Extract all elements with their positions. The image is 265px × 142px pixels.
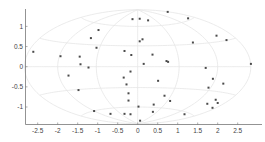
data-point bbox=[90, 37, 92, 39]
x-tick-label: -1 bbox=[95, 127, 101, 134]
data-point bbox=[138, 106, 140, 108]
data-point bbox=[132, 18, 134, 20]
data-point bbox=[139, 40, 141, 42]
data-point bbox=[139, 120, 141, 122]
x-tick-label: 0.5 bbox=[153, 127, 162, 134]
data-point bbox=[123, 77, 125, 79]
data-point bbox=[88, 67, 90, 69]
data-point bbox=[157, 80, 159, 82]
data-point bbox=[167, 61, 169, 63]
data-point bbox=[250, 63, 252, 65]
x-tick-label: -2 bbox=[55, 127, 61, 134]
data-point bbox=[167, 11, 169, 13]
data-point bbox=[130, 54, 132, 56]
x-tick-label: 0 bbox=[136, 127, 140, 134]
data-point bbox=[217, 102, 219, 104]
data-point bbox=[212, 107, 214, 109]
data-point bbox=[79, 56, 81, 58]
x-tick-label: -0.5 bbox=[112, 127, 124, 134]
data-point bbox=[128, 100, 130, 102]
x-tick-label: 1 bbox=[176, 127, 180, 134]
data-point bbox=[130, 113, 132, 115]
data-point bbox=[147, 19, 149, 21]
data-point bbox=[192, 42, 194, 44]
data-point bbox=[206, 103, 208, 105]
data-point bbox=[139, 18, 141, 20]
data-point bbox=[152, 54, 154, 56]
data-point bbox=[208, 87, 210, 89]
data-point bbox=[169, 100, 171, 102]
data-point bbox=[128, 92, 130, 94]
data-point bbox=[212, 78, 214, 80]
data-point bbox=[222, 83, 224, 85]
data-point bbox=[187, 17, 189, 19]
data-point bbox=[98, 29, 100, 31]
data-point bbox=[96, 47, 98, 49]
y-tick-label: 0 bbox=[19, 63, 23, 70]
data-point bbox=[216, 35, 218, 37]
data-point bbox=[143, 63, 145, 65]
x-tick-label: 2.5 bbox=[233, 127, 242, 134]
data-point bbox=[205, 67, 207, 69]
data-point bbox=[226, 39, 228, 41]
x-tick-label: 1.5 bbox=[193, 127, 202, 134]
data-point bbox=[110, 113, 112, 115]
data-point bbox=[93, 110, 95, 112]
data-point bbox=[130, 71, 132, 73]
data-point bbox=[142, 38, 144, 40]
y-tick-label: 0.5 bbox=[14, 43, 23, 50]
x-tick-label: 2 bbox=[216, 127, 220, 134]
data-point bbox=[60, 55, 62, 57]
x-tick-label: -2.5 bbox=[32, 127, 44, 134]
data-point bbox=[68, 75, 70, 77]
y-tick-label: 1 bbox=[19, 23, 23, 30]
data-point bbox=[124, 50, 126, 52]
data-point bbox=[80, 63, 82, 65]
data-point bbox=[215, 99, 217, 101]
data-point bbox=[164, 95, 166, 97]
data-point bbox=[32, 51, 34, 53]
x-tick-label: -1.5 bbox=[72, 127, 84, 134]
data-point bbox=[78, 89, 80, 91]
data-point bbox=[153, 104, 155, 106]
scatter-chart: -2.5-2-1.5-1-0.500.511.522.5 10.50-0.5-1 bbox=[0, 0, 265, 142]
data-point bbox=[184, 113, 186, 115]
data-point bbox=[152, 111, 154, 113]
y-tick-label: -0.5 bbox=[12, 83, 24, 90]
y-tick-label: -1 bbox=[17, 103, 23, 110]
data-point bbox=[124, 113, 126, 115]
data-point bbox=[126, 83, 128, 85]
